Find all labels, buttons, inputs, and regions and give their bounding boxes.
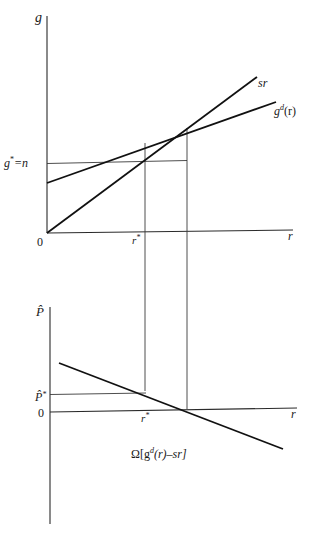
p-star-label: P̂* bbox=[34, 390, 46, 404]
r-axis-top-label: r bbox=[288, 229, 293, 243]
r-axis-bottom bbox=[50, 408, 297, 412]
r-axis-bottom-label: r bbox=[291, 407, 296, 421]
r-star-label-top: r* bbox=[132, 233, 140, 246]
inflation-curve-label: Ω[gd(r)–sr] bbox=[131, 446, 187, 461]
r-axis-top bbox=[47, 230, 293, 233]
investment-curve-label: gd(r) bbox=[274, 103, 296, 118]
zero-label: 0 bbox=[38, 406, 44, 420]
macro-growth-diagram: g 0 r g*=n r* sr gd(r) P̂ 0 r P̂* bbox=[0, 0, 311, 533]
investment-demand-curve bbox=[47, 102, 276, 183]
savings-curve-label: sr bbox=[258, 76, 268, 90]
origin-label: 0 bbox=[37, 235, 43, 249]
equilibrium-growth-label: g*=n bbox=[4, 155, 28, 170]
bottom-panel: P̂ 0 r P̂* r* Ω[gd(r)–sr] bbox=[34, 304, 297, 524]
savings-curve-sr bbox=[47, 77, 257, 233]
r-star-label-bottom: r* bbox=[141, 411, 149, 424]
equilibrium-growth-line bbox=[47, 161, 187, 164]
p-hat-axis-label: P̂ bbox=[35, 304, 44, 319]
inflation-curve bbox=[59, 363, 283, 449]
top-panel: g 0 r g*=n r* sr gd(r) bbox=[4, 10, 296, 409]
g-axis-label: g bbox=[35, 10, 42, 25]
p-star-line bbox=[50, 393, 146, 395]
